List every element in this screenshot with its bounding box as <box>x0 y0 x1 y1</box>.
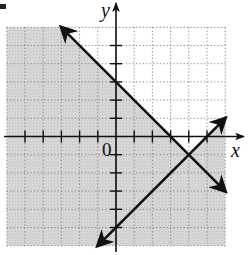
y-axis-label: y <box>99 0 110 22</box>
origin-label: 0 <box>102 139 112 160</box>
inequality-graph: x y 0 <box>0 0 250 255</box>
x-axis-label: x <box>230 139 240 161</box>
